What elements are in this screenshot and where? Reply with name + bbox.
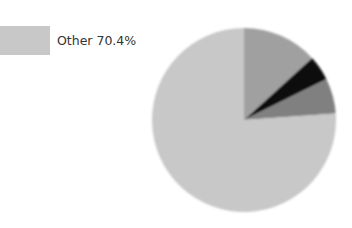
pie-chart <box>140 14 352 228</box>
pie-chart-svg <box>140 14 352 228</box>
legend-label-other: Other 70.4% <box>57 33 136 48</box>
legend-swatch-other <box>0 26 50 55</box>
chart-legend: Other 70.4% <box>0 25 136 55</box>
